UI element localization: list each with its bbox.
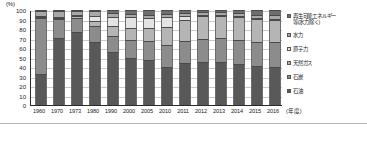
bar-segment (125, 28, 138, 40)
bar-column (233, 10, 246, 105)
bar-segment (89, 42, 102, 105)
y-axis-tick-label: 60 (19, 46, 26, 52)
y-axis-tick-label: 40 (19, 65, 26, 71)
x-axis-tick-label: 2015 (246, 108, 264, 115)
x-axis-tick-label: 1970 (48, 108, 66, 115)
bar-segment (179, 63, 192, 105)
bar-series-container (32, 11, 282, 105)
y-axis-tick-label: 0 (23, 103, 26, 109)
bar-column (143, 10, 156, 105)
bar-segment (125, 17, 138, 28)
legend-swatch-renewable (287, 14, 291, 18)
bar-segment (251, 42, 264, 66)
bar-column (35, 10, 48, 105)
legend-item-label: 原子力 (293, 46, 307, 52)
legend-item-label: 石炭 (293, 74, 303, 80)
legend-swatch-natural-gas (287, 61, 291, 65)
bar-segment (107, 36, 120, 52)
bar-segment (179, 41, 192, 63)
bar-column (251, 10, 264, 105)
x-axis-title: (年度) (286, 108, 302, 115)
x-axis-tick-label: 2014 (228, 108, 246, 115)
bar-segment (269, 20, 282, 43)
bar-segment (197, 16, 210, 39)
y-axis-tick-label: 100 (16, 8, 26, 14)
legend-item: 水力 (287, 32, 303, 38)
y-axis-tick-labels: 0102030405060708090100 (0, 11, 28, 106)
bar-column (215, 10, 228, 105)
bar-column (89, 10, 102, 105)
page-rule-divider (0, 123, 367, 124)
bar-segment (215, 38, 228, 62)
y-axis-tick-label: 50 (19, 56, 26, 62)
y-axis-tick-label: 10 (19, 94, 26, 100)
bar-segment (35, 74, 48, 105)
legend-swatch-oil (287, 89, 291, 93)
bar-segment (143, 28, 156, 41)
bar-segment (161, 45, 174, 67)
y-axis-tick-label: 70 (19, 37, 26, 43)
bar-segment (125, 40, 138, 57)
bar-segment (251, 66, 264, 105)
legend-item: 石油 (287, 88, 303, 94)
legend-item: 天然ガス (287, 60, 312, 66)
legend-item: 再生可能エネルギー 等(水力除く) (287, 13, 336, 26)
bar-column (125, 10, 138, 105)
bar-segment (35, 18, 48, 74)
bar-segment (179, 20, 192, 42)
bar-column (107, 10, 120, 105)
x-axis-tick-label: 2000 (120, 108, 138, 115)
bar-column (179, 10, 192, 105)
bar-segment (197, 39, 210, 63)
legend-swatch-coal (287, 75, 291, 79)
x-axis-tick-label: 2012 (192, 108, 210, 115)
bar-segment (233, 17, 246, 41)
bar-segment (53, 19, 66, 39)
bar-segment (125, 58, 138, 106)
legend-item-label: 水力 (293, 32, 303, 38)
bar-segment (71, 32, 84, 105)
bar-segment (53, 38, 66, 105)
bar-segment (71, 18, 84, 32)
energy-supply-composition-chart: (%) 0102030405060708090100 1960197019731… (0, 0, 367, 142)
legend-item-label: 天然ガス (293, 60, 312, 66)
legend-item: 原子力 (287, 46, 307, 52)
legend-swatch-nuclear (287, 47, 291, 51)
bar-column (161, 10, 174, 105)
bar-segment (233, 64, 246, 105)
bar-segment (233, 40, 246, 64)
bar-segment (143, 41, 156, 60)
x-axis-tick-labels: 1960197019731980199020002005201020112012… (30, 108, 282, 118)
bar-segment (107, 52, 120, 105)
bar-segment (269, 67, 282, 105)
legend-item-label: 石油 (293, 88, 303, 94)
y-axis-unit-label: (%) (6, 1, 15, 8)
y-axis-tick-label: 80 (19, 27, 26, 33)
bar-segment (89, 26, 102, 42)
x-axis-tick-label: 1973 (66, 108, 84, 115)
legend-swatch-hydro (287, 33, 291, 37)
bar-column (269, 10, 282, 105)
bar-segment (251, 19, 264, 42)
plot-area (30, 11, 282, 106)
x-axis-tick-label: 2011 (174, 108, 192, 115)
x-axis-tick-label: 1980 (84, 108, 102, 115)
bar-segment (215, 16, 228, 39)
bar-segment (161, 17, 174, 27)
legend-item: 石炭 (287, 74, 303, 80)
y-axis-tick-label: 90 (19, 18, 26, 24)
bar-segment (197, 62, 210, 105)
x-axis-tick-label: 1990 (102, 108, 120, 115)
bar-segment (269, 42, 282, 67)
bar-segment (107, 26, 120, 36)
bar-column (197, 10, 210, 105)
y-axis-tick-label: 20 (19, 84, 26, 90)
x-axis-tick-label: 2005 (138, 108, 156, 115)
y-axis-tick-label: 30 (19, 75, 26, 81)
bar-segment (161, 67, 174, 105)
x-axis-tick-label: 2010 (156, 108, 174, 115)
bar-column (53, 10, 66, 105)
bar-segment (161, 27, 174, 45)
bar-segment (143, 60, 156, 105)
x-axis-tick-label: 1960 (30, 108, 48, 115)
